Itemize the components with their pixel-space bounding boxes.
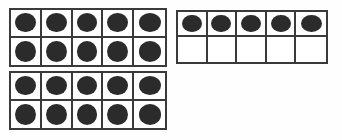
ten-frame-cell-filled[interactable] [42, 73, 73, 101]
counter-dot-icon [139, 76, 161, 95]
counter-dot-icon [15, 104, 36, 125]
ten-frame-cell-filled[interactable] [11, 73, 42, 101]
counter-dot-icon [139, 13, 161, 32]
counter-dot-icon [182, 15, 202, 32]
counter-dot-icon [46, 41, 67, 62]
ten-frame-cell-filled[interactable] [73, 38, 104, 66]
counter-dot-icon [15, 76, 36, 95]
worksheet-canvas [0, 0, 342, 140]
counter-dot-icon [107, 104, 128, 125]
ten-frame-1[interactable] [9, 8, 167, 67]
counter-dot-icon [46, 13, 67, 32]
counter-dot-icon [139, 41, 161, 62]
counter-dot-icon [271, 15, 291, 32]
ten-frame-2[interactable] [176, 10, 328, 64]
ten-frame-cell-filled[interactable] [103, 101, 134, 129]
counter-dot-icon [77, 104, 98, 125]
ten-frame-cell-filled[interactable] [134, 101, 165, 129]
ten-frame-3[interactable] [9, 71, 167, 130]
ten-frame-cell-filled[interactable] [42, 101, 73, 129]
ten-frame-cell-filled[interactable] [208, 12, 238, 37]
counter-dot-icon [15, 13, 36, 32]
counter-dot-icon [77, 76, 98, 95]
ten-frame-cell-filled[interactable] [103, 10, 134, 38]
ten-frame-cell-filled[interactable] [11, 38, 42, 66]
ten-frame-cell-filled[interactable] [73, 10, 104, 38]
counter-dot-icon [46, 76, 67, 95]
ten-frame-cell-filled[interactable] [11, 101, 42, 129]
ten-frame-cell-filled[interactable] [42, 10, 73, 38]
counter-dot-icon [107, 41, 128, 62]
ten-frame-cell-filled[interactable] [103, 73, 134, 101]
ten-frame-cell-filled[interactable] [296, 12, 326, 37]
ten-frame-cell-filled[interactable] [73, 73, 104, 101]
counter-dot-icon [15, 41, 36, 62]
counter-dot-icon [241, 15, 261, 32]
ten-frame-cell-empty[interactable] [178, 37, 208, 62]
counter-dot-icon [77, 13, 98, 32]
ten-frame-cell-empty[interactable] [296, 37, 326, 62]
ten-frame-cell-empty[interactable] [237, 37, 267, 62]
ten-frame-cell-filled[interactable] [134, 10, 165, 38]
ten-frame-cell-filled[interactable] [178, 12, 208, 37]
ten-frame-cell-filled[interactable] [134, 73, 165, 101]
ten-frame-cell-filled[interactable] [11, 10, 42, 38]
counter-dot-icon [107, 13, 128, 32]
counter-dot-icon [46, 104, 67, 125]
ten-frame-cell-empty[interactable] [208, 37, 238, 62]
counter-dot-icon [107, 76, 128, 95]
ten-frame-cell-filled[interactable] [267, 12, 297, 37]
counter-dot-icon [77, 41, 98, 62]
counter-dot-icon [211, 15, 231, 32]
counter-dot-icon [139, 104, 161, 125]
counter-dot-icon [301, 15, 322, 32]
ten-frame-cell-filled[interactable] [73, 101, 104, 129]
ten-frame-cell-filled[interactable] [103, 38, 134, 66]
ten-frame-cell-filled[interactable] [42, 38, 73, 66]
ten-frame-cell-filled[interactable] [237, 12, 267, 37]
ten-frame-cell-empty[interactable] [267, 37, 297, 62]
ten-frame-cell-filled[interactable] [134, 38, 165, 66]
